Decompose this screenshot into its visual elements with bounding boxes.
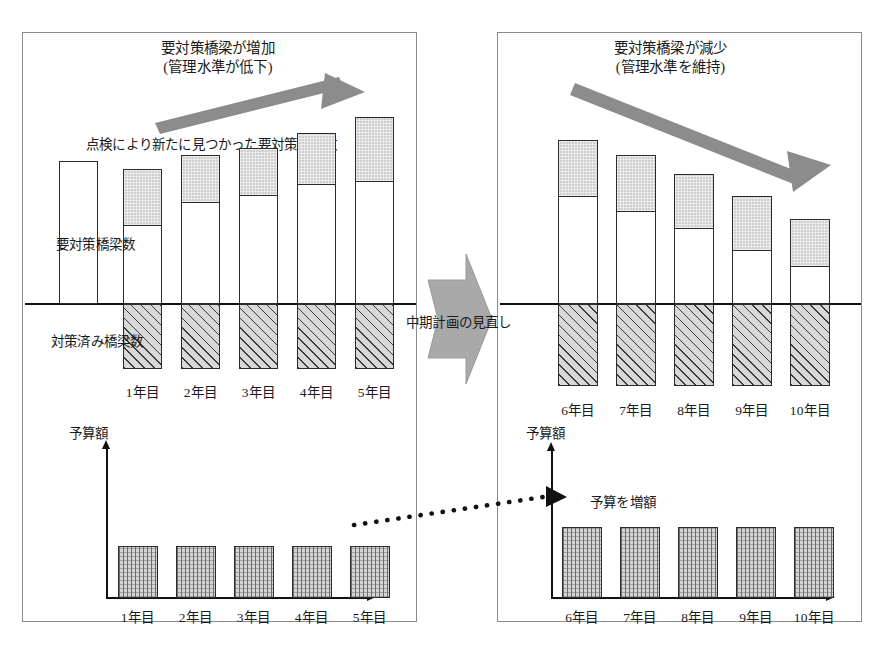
dotted-budget-connector [350, 480, 580, 535]
budget-bar-3 [234, 546, 274, 598]
left-budget-y-axis-arrow-icon [102, 440, 110, 449]
bar-9-need [732, 250, 772, 304]
bar-7-need [616, 211, 656, 304]
year-tick-3: 3年目 [232, 381, 285, 401]
bar-6-need [558, 196, 598, 304]
budget-year-tick-5: 5年目 [343, 606, 396, 626]
left-budget-axis-label: 予算額 [69, 422, 109, 442]
year-tick-1: 1年目 [116, 381, 169, 401]
budget-bar-7 [620, 527, 660, 598]
budget-year-tick-1: 1年目 [111, 606, 164, 626]
budget-year-tick-8: 8年目 [671, 606, 725, 626]
bar-6-done [558, 304, 598, 386]
bar-6-found [558, 140, 598, 197]
budget-year-tick-3: 3年目 [227, 606, 280, 626]
budget-year-tick-4: 4年目 [285, 606, 338, 626]
year-tick-7: 7年目 [609, 399, 663, 419]
bar-3-done [239, 304, 278, 369]
bar-2-need [181, 202, 220, 304]
bar-5-found [355, 117, 394, 182]
budget-bar-5 [350, 546, 390, 598]
bar-10-found [790, 219, 830, 267]
budget-bar-10 [794, 527, 834, 598]
bar-8-need [674, 228, 714, 304]
budget-increase-label: 予算を増額 [590, 491, 656, 511]
bar-8-found [674, 174, 714, 229]
bar-8-done [674, 304, 714, 386]
right-budget-axis-label: 予算額 [526, 422, 566, 442]
left-panel-title: 要対策橋梁が増加 (管理水準が低下) [113, 39, 323, 77]
bar-9-done [732, 304, 772, 386]
bar-4-need [297, 184, 336, 304]
budget-year-tick-6: 6年目 [555, 606, 609, 626]
year-tick-8: 8年目 [667, 399, 721, 419]
year-tick-10: 10年目 [783, 399, 837, 419]
budget-year-tick-7: 7年目 [613, 606, 667, 626]
budget-bar-1 [118, 546, 158, 598]
done-bridges-label: 対策済み橋梁数 [51, 330, 143, 350]
year-tick-4: 4年目 [290, 381, 343, 401]
bar-4-done [297, 304, 336, 369]
transition-label: 中期計画の見直し [406, 311, 512, 331]
bar-5-done [355, 304, 394, 369]
right-budget-y-axis-arrow-icon [547, 442, 555, 451]
bar-10-done [790, 304, 830, 386]
budget-year-tick-10: 10年目 [787, 606, 841, 626]
year-tick-2: 2年目 [174, 381, 227, 401]
bar-7-done [616, 304, 656, 386]
diagram-canvas: 要対策橋梁が増加 (管理水準が低下) 点検により新たに見つかった要対策橋梁数 [0, 0, 882, 653]
right-panel-title: 要対策橋梁が減少 (管理水準を維持) [563, 39, 778, 77]
budget-bar-8 [678, 527, 718, 598]
bar-2-done [181, 304, 220, 369]
bar-3-found [239, 148, 278, 196]
left-budget-y-axis [106, 448, 108, 598]
bar-9-found [732, 196, 772, 251]
bar-2-found [181, 155, 220, 203]
bar-5-need [355, 181, 394, 304]
bar-4-found [297, 133, 336, 185]
bar-7-found [616, 155, 656, 212]
year-tick-5: 5年目 [348, 381, 401, 401]
bar-1-found [123, 169, 162, 226]
budget-year-tick-9: 9年目 [729, 606, 783, 626]
budget-bar-2 [176, 546, 216, 598]
need-bridges-label: 要対策橋梁数 [56, 233, 135, 253]
budget-bar-6 [562, 527, 602, 598]
year-tick-9: 9年目 [725, 399, 779, 419]
year-tick-6: 6年目 [551, 399, 605, 419]
up-trend-arrow [153, 73, 383, 133]
budget-bar-9 [736, 527, 776, 598]
budget-bar-4 [292, 546, 332, 598]
bar-10-need [790, 266, 830, 304]
bar-3-need [239, 195, 278, 304]
budget-year-tick-2: 2年目 [169, 606, 222, 626]
